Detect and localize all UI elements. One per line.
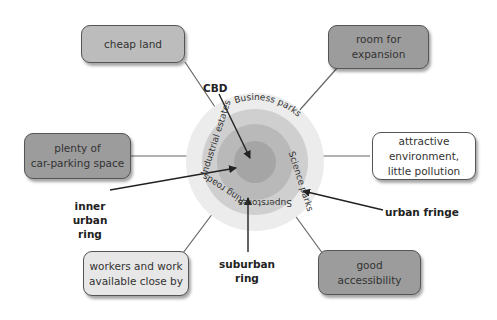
box-attractive-environment: attractiveenvironment,little pollution xyxy=(372,132,476,180)
label-urban-fringe: urban fringe xyxy=(385,205,459,219)
box-text: plenty ofcar-parking space xyxy=(31,141,125,171)
box-text: room forexpansion xyxy=(352,32,406,62)
box-text: attractiveenvironment,little pollution xyxy=(388,134,460,179)
box-room-for-expansion: room forexpansion xyxy=(328,25,429,69)
ring-label-superstores: Superstores xyxy=(238,198,292,208)
box-text: workers and workavailable close by xyxy=(89,259,183,289)
box-text: cheap land xyxy=(104,37,162,52)
label-cbd: CBD xyxy=(203,81,227,95)
box-text: goodaccessibility xyxy=(337,258,401,288)
box-car-parking: plenty ofcar-parking space xyxy=(24,133,131,179)
box-good-accessibility: goodaccessibility xyxy=(318,250,421,295)
box-cheap-land: cheap land xyxy=(81,25,185,63)
label-inner-urban-ring: innerurban ring xyxy=(60,199,120,241)
ring-cbd xyxy=(234,141,276,183)
box-workers-close-by: workers and workavailable close by xyxy=(83,251,189,296)
label-suburban-ring: suburbanring xyxy=(215,257,279,285)
